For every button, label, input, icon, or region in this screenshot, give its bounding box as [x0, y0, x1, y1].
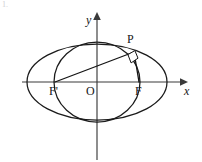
label-focus-left: F': [49, 84, 58, 98]
label-origin: O: [86, 84, 95, 98]
label-x-axis: x: [183, 84, 190, 98]
label-point-p: P: [127, 32, 134, 46]
label-focus-right: F: [135, 84, 142, 98]
coordinate-axes: [22, 12, 188, 160]
label-y-axis: y: [85, 13, 92, 27]
geometry-figure-canvas: 1. F' O F P: [0, 0, 202, 162]
y-axis-arrowhead: [93, 12, 101, 20]
segment-f-prime-to-p: [55, 52, 134, 82]
ellipse-circle-diagram: F' O F P y x: [0, 0, 202, 162]
right-angle-icon: [128, 51, 138, 63]
